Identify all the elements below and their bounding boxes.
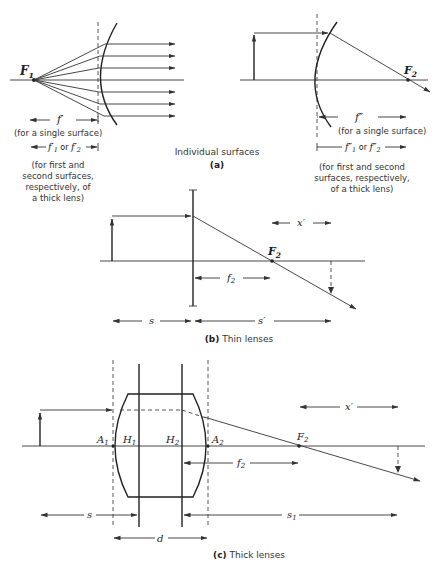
panel-b-caption: (b)Thin lenses: [205, 334, 274, 344]
focal-point-label: F2: [296, 431, 309, 444]
panel-a-left: F1 f′ (for a single surface) f′1 or f′2 …: [10, 22, 184, 203]
s-prime-label: s′: [258, 315, 266, 326]
refracting-surface: [101, 23, 118, 125]
thick-lens-note: (for first and second surfaces, respecti…: [22, 160, 94, 203]
panel-b-thin-lens: F2 x′ f2 s s′: [100, 190, 365, 326]
vertex-a1-label: A1: [96, 434, 109, 447]
refracted-ray: [193, 216, 356, 309]
thick-lens-focal-labels: f′1 or f′2: [47, 141, 81, 154]
refracted-ray: [330, 33, 430, 92]
focal-point-label: F2: [267, 245, 281, 260]
svg-text:respectively, of: respectively, of: [25, 182, 91, 192]
focal-length-label: f″: [354, 111, 364, 124]
panel-a-right: F2 f″ (for a single surface) f″1 or f″2 …: [240, 14, 430, 194]
focal-point-label: F2: [403, 64, 417, 79]
thick-lens-body: [115, 394, 206, 497]
svg-text:surfaces, respectively,: surfaces, respectively,: [314, 173, 410, 183]
panel-a-letter: (a): [210, 160, 224, 170]
focal-point-label: F1: [19, 64, 34, 80]
focal-point-dot: [406, 78, 410, 82]
single-surface-note: (for a single surface): [338, 126, 426, 136]
s1-label: s1: [287, 509, 297, 522]
svg-text:(for first and second: (for first and second: [319, 162, 405, 172]
s-label: s: [87, 509, 92, 520]
panel-c-thick-lens: A1 H1 H2 A2 F2 x′ f2 s s1 d: [22, 360, 425, 544]
thick-lens-note: (for first and second surfaces, respecti…: [314, 162, 410, 194]
x-prime-label: x′: [297, 217, 306, 228]
refracting-surface: [315, 22, 337, 127]
vertex-a2-label: A2: [211, 434, 224, 447]
principal-h2-label: H2: [165, 434, 180, 447]
svg-text:second surfaces,: second surfaces,: [22, 171, 94, 181]
panel-c-caption: (c)Thick lenses: [213, 550, 285, 560]
focal-length-label: f′: [56, 113, 64, 126]
focal-length-label: f2: [226, 272, 236, 285]
thick-lens-focal-labels: f″1 or f″2: [344, 141, 381, 154]
refracted-ray: [204, 417, 420, 481]
focal-length-label: f2: [236, 457, 246, 470]
x-prime-label: x′: [345, 401, 354, 412]
svg-text:(for first and: (for first and: [31, 160, 84, 170]
single-surface-note: (for a single surface): [14, 128, 102, 138]
s-label: s: [149, 315, 154, 326]
d-label: d: [157, 533, 163, 544]
svg-text:of a thick lens): of a thick lens): [331, 184, 394, 194]
principal-h1-label: H1: [122, 434, 136, 447]
optics-figure: F1 f′ (for a single surface) f′1 or f′2 …: [0, 0, 445, 566]
svg-text:a thick lens): a thick lens): [32, 193, 84, 203]
panel-a-caption: Individual surfaces: [175, 147, 260, 157]
